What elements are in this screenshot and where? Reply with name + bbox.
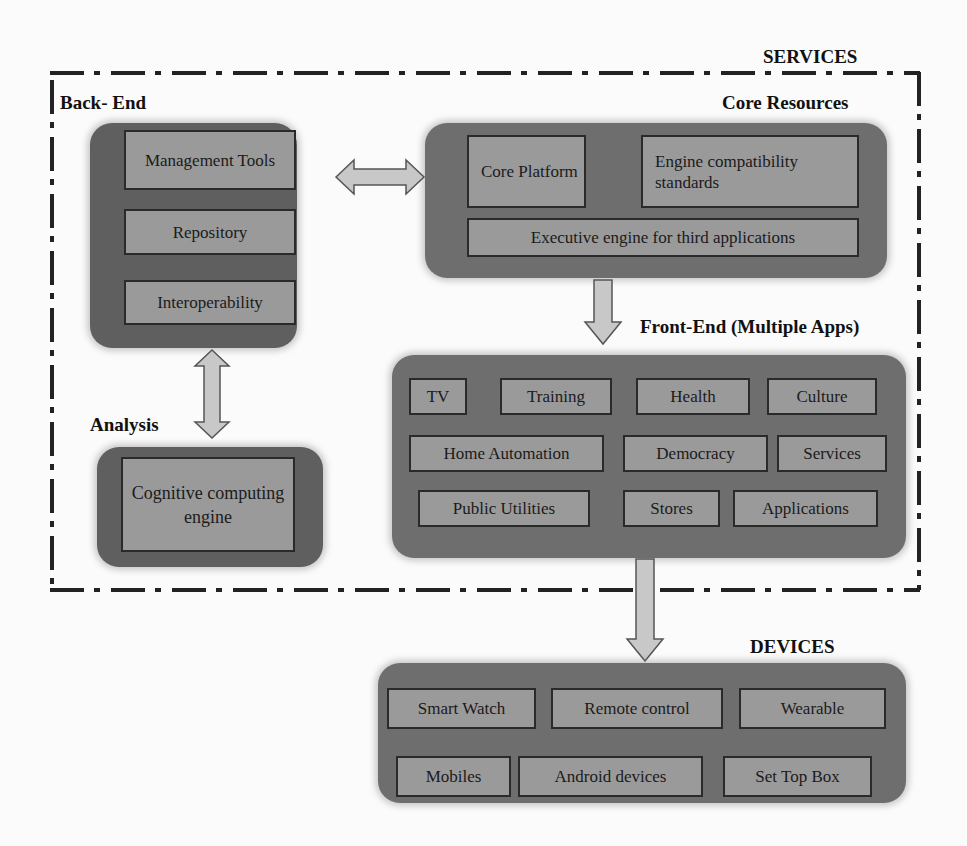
app-home-automation: Home Automation bbox=[409, 435, 604, 472]
management-tools-box: Management Tools bbox=[124, 130, 296, 190]
core-resources-label: Core Resources bbox=[722, 92, 848, 114]
app-tv: TV bbox=[409, 378, 467, 415]
device-wearable: Wearable bbox=[739, 688, 886, 729]
repository-box: Repository bbox=[124, 209, 296, 255]
services-boundary-right bbox=[917, 72, 921, 590]
cognitive-computing-engine-box: Cognitive computing engine bbox=[121, 457, 295, 552]
services-boundary-left bbox=[50, 80, 54, 590]
app-public-utilities: Public Utilities bbox=[418, 490, 590, 527]
app-health: Health bbox=[636, 378, 750, 415]
app-training: Training bbox=[500, 378, 612, 415]
analysis-label: Analysis bbox=[90, 414, 159, 436]
devices-label: DEVICES bbox=[750, 636, 834, 658]
app-stores: Stores bbox=[623, 490, 720, 527]
down-arrow-frontend-devices-icon bbox=[625, 557, 665, 663]
bidirectional-arrow-backend-analysis-icon bbox=[193, 348, 231, 440]
device-smart-watch: Smart Watch bbox=[387, 688, 536, 729]
bidirectional-arrow-backend-core-icon bbox=[334, 158, 426, 196]
app-services: Services bbox=[777, 435, 887, 472]
device-remote-control: Remote control bbox=[551, 688, 723, 729]
executive-engine-box: Executive engine for third applications bbox=[467, 218, 859, 257]
back-end-label: Back- End bbox=[60, 92, 146, 114]
device-mobiles: Mobiles bbox=[396, 756, 511, 797]
engine-compatibility-box: Engine compatibility standards bbox=[641, 135, 859, 208]
services-label: SERVICES bbox=[763, 46, 857, 68]
device-set-top-box: Set Top Box bbox=[723, 756, 872, 797]
down-arrow-core-frontend-icon bbox=[583, 278, 623, 346]
app-culture: Culture bbox=[767, 378, 877, 415]
device-android-devices: Android devices bbox=[518, 756, 703, 797]
interoperability-box: Interoperability bbox=[124, 280, 296, 325]
app-applications: Applications bbox=[733, 490, 878, 527]
front-end-label: Front-End (Multiple Apps) bbox=[640, 316, 859, 338]
core-platform-box: Core Platform bbox=[467, 135, 586, 208]
services-boundary-top bbox=[50, 71, 920, 75]
services-boundary-bottom bbox=[50, 588, 920, 592]
app-democracy: Democracy bbox=[623, 435, 768, 472]
